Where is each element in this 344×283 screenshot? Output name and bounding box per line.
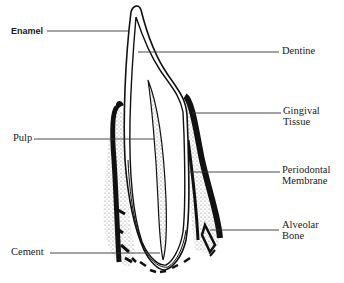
label-cement: Cement <box>11 247 44 257</box>
tooth-diagram: Enamel Dentine Gingival Tissue Pulp Peri… <box>0 0 344 283</box>
label-periodontal: Periodontal <box>282 165 330 175</box>
label-bone: Bone <box>282 231 304 241</box>
label-alveolar: Alveolar <box>282 220 319 230</box>
label-pulp: Pulp <box>13 133 32 143</box>
label-tissue: Tissue <box>283 117 310 127</box>
label-dentine: Dentine <box>282 46 315 56</box>
label-gingival: Gingival <box>283 106 320 116</box>
label-membrane: Membrane <box>282 176 327 186</box>
label-enamel: Enamel <box>11 26 43 36</box>
